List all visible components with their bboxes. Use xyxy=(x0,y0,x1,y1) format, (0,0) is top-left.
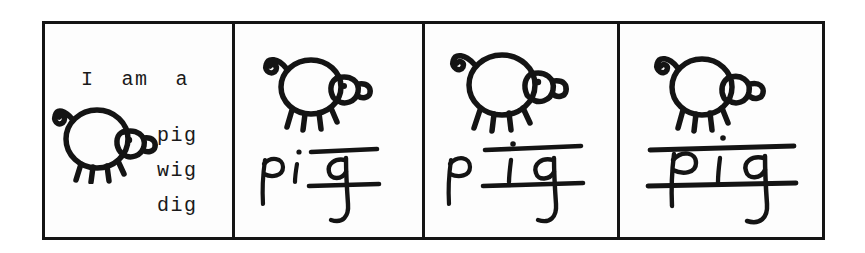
handwritten-word-group xyxy=(441,128,613,232)
hw-letter-g xyxy=(535,158,556,221)
hw-letter-g xyxy=(329,158,348,221)
hw-letter-i xyxy=(718,135,726,182)
hw-letter-g xyxy=(745,156,767,222)
scanned-sheet: I am a pig wig dig xyxy=(0,0,865,253)
chunk-box-lines xyxy=(483,146,583,186)
hw-letter-i xyxy=(295,149,302,182)
comic-panel-4 xyxy=(617,24,822,237)
pig-drawing-icon xyxy=(259,42,379,134)
handwritten-word-group xyxy=(253,132,413,232)
pig-drawing-icon xyxy=(51,92,159,184)
pig-drawing-icon xyxy=(447,40,575,136)
word-list: pig wig dig xyxy=(157,118,229,223)
hw-letter-p xyxy=(263,159,283,204)
handwritten-word-group xyxy=(644,124,822,232)
comic-panel-1: I am a pig wig dig xyxy=(45,24,232,237)
comic-strip-frame: I am a pig wig dig xyxy=(42,21,825,240)
hw-letter-p xyxy=(449,158,470,204)
hw-letter-p xyxy=(672,154,696,206)
comic-panel-3 xyxy=(422,24,617,237)
comic-panel-2 xyxy=(232,24,422,237)
word-list-item-wig: wig xyxy=(157,153,229,188)
word-list-item-pig: pig xyxy=(157,118,229,153)
pig-drawing-icon xyxy=(652,42,772,134)
word-list-item-dig: dig xyxy=(157,188,229,223)
sentence-text: I am a xyxy=(81,68,189,91)
